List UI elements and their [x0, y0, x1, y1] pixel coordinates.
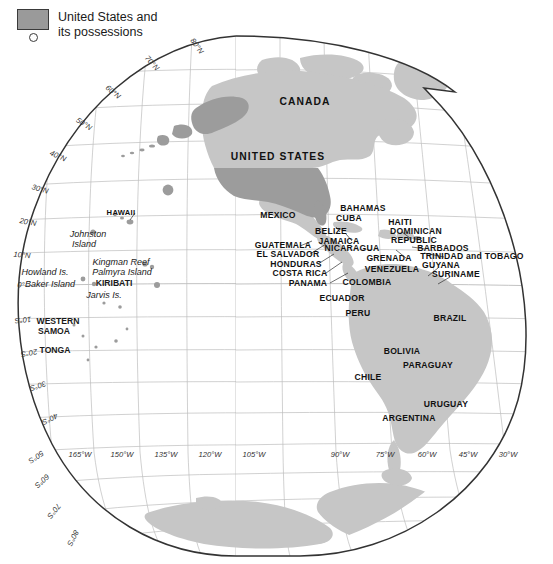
world-map-canvas [0, 0, 553, 564]
map-figure: CANADAUNITED STATESMEXICOBAHAMASCUBAHAIT… [0, 0, 553, 564]
legend-point-circle-icon [29, 33, 38, 42]
legend-label: United States and its possessions [58, 9, 157, 39]
legend-area-swatch [17, 9, 49, 30]
legend-symbols [17, 9, 49, 42]
map-legend: United States and its possessions [17, 9, 157, 42]
